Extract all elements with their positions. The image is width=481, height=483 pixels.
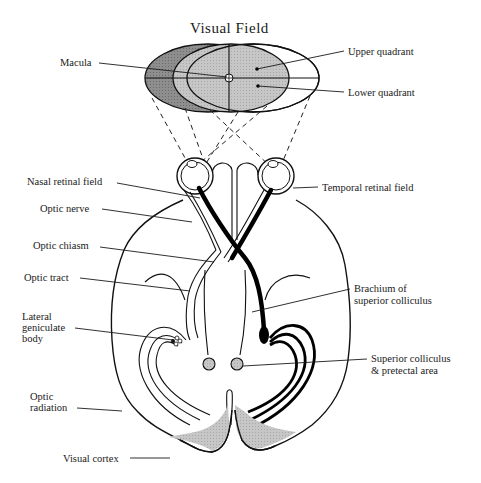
label-lower-quadrant: Lower quadrant: [348, 87, 415, 98]
right-eye: [258, 158, 294, 194]
label-sc-2: & pretectal area: [371, 365, 438, 376]
left-optic-radiation: [139, 327, 210, 425]
right-lens: [268, 161, 278, 168]
left-eye: [177, 158, 213, 194]
label-optic-radiation-1: Optic: [30, 391, 54, 402]
label-lgb-2: geniculate: [22, 322, 65, 333]
label-temporal-retinal-field: Temporal retinal field: [322, 182, 414, 193]
lgb-cell: [178, 339, 182, 343]
visual-pathway-diagram: Visual Field Macula Upper quadrant Lower…: [0, 0, 481, 483]
label-optic-tract: Optic tract: [24, 272, 69, 283]
label-macula: Macula: [60, 57, 92, 68]
visual-field-title: Visual Field: [190, 20, 269, 36]
brain-outline: [111, 163, 350, 452]
label-lgb-3: body: [22, 333, 44, 344]
right-superior-colliculus: [231, 358, 243, 370]
label-upper-quadrant: Upper quadrant: [348, 46, 414, 57]
label-sc-1: Superior colliculus: [371, 353, 451, 364]
label-lgb-1: Lateral: [22, 311, 52, 322]
superior-colliculi: [203, 358, 243, 370]
label-optic-chiasm: Optic chiasm: [33, 240, 89, 251]
left-lens: [187, 161, 197, 168]
label-brachium-2: superior colliculus: [354, 295, 432, 306]
label-brachium-1: Brachium of: [354, 283, 407, 294]
black-pathway: [199, 188, 271, 344]
label-optic-radiation-2: radiation: [30, 402, 68, 413]
left-superior-colliculus: [203, 358, 215, 370]
label-optic-nerve: Optic nerve: [40, 203, 90, 214]
label-nasal-retinal-field: Nasal retinal field: [27, 176, 103, 187]
right-optic-radiation: [248, 325, 314, 428]
visual-field: Visual Field Macula Upper quadrant Lower…: [60, 20, 415, 112]
label-visual-cortex: Visual cortex: [63, 453, 119, 464]
lgb-cell: [174, 342, 178, 346]
